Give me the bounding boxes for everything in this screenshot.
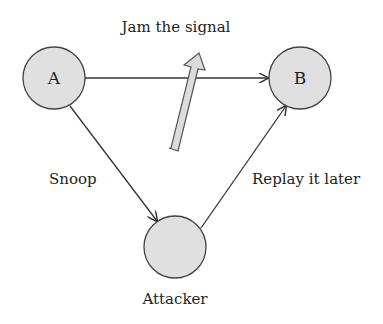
node-a: A (23, 47, 85, 109)
edge-attacker-to-b (201, 106, 286, 228)
replay-attack-diagram: A B Jam the signal Snoop Replay it later… (0, 0, 383, 324)
jam-arrow-icon (169, 53, 205, 151)
attacker-label: Attacker (141, 290, 208, 308)
node-b-label: B (294, 68, 307, 88)
node-attacker (144, 216, 206, 278)
snoop-label: Snoop (49, 170, 97, 188)
jam-label: Jam the signal (120, 18, 231, 36)
node-b: B (269, 47, 331, 109)
node-a-label: A (47, 68, 61, 88)
replay-label: Replay it later (252, 170, 361, 188)
edge-a-to-attacker (70, 106, 157, 221)
